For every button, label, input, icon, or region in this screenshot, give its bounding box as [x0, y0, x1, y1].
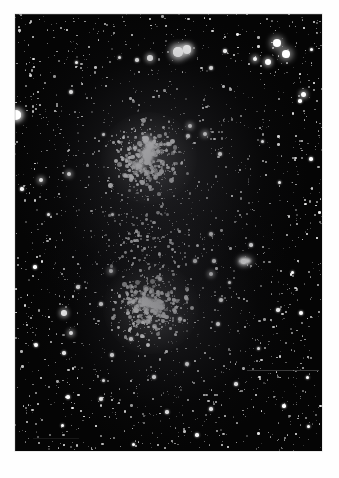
star	[301, 92, 306, 97]
star	[78, 293, 79, 294]
star	[132, 224, 135, 227]
star	[295, 184, 296, 185]
star	[139, 290, 141, 292]
star	[77, 132, 78, 133]
star	[32, 58, 34, 60]
star	[300, 363, 302, 365]
star	[91, 400, 92, 401]
star	[218, 152, 222, 156]
star	[269, 147, 271, 149]
star	[33, 295, 34, 296]
star	[268, 344, 269, 345]
bright-double-star-a	[173, 47, 183, 57]
star	[129, 327, 132, 330]
star	[88, 446, 89, 447]
star	[188, 124, 193, 129]
star	[134, 285, 137, 288]
star	[81, 116, 83, 118]
star	[113, 34, 114, 35]
star	[30, 20, 32, 22]
star	[174, 443, 176, 445]
star	[294, 159, 296, 161]
star	[187, 319, 188, 320]
star	[163, 116, 165, 118]
star	[211, 249, 213, 251]
star	[202, 48, 203, 49]
star	[184, 435, 185, 436]
star	[25, 69, 26, 70]
star	[86, 59, 87, 60]
star	[36, 256, 38, 258]
star	[296, 223, 298, 225]
star	[297, 299, 298, 300]
star	[38, 309, 40, 311]
star	[318, 135, 319, 136]
star	[168, 86, 169, 87]
star	[69, 329, 70, 330]
star	[304, 113, 305, 114]
star	[229, 247, 232, 250]
star	[282, 410, 283, 411]
star	[243, 298, 245, 300]
star	[140, 220, 141, 221]
star	[263, 382, 265, 384]
star	[31, 69, 33, 71]
star	[316, 433, 317, 434]
star	[275, 110, 276, 111]
star	[117, 59, 118, 60]
star	[94, 71, 97, 74]
star	[308, 86, 310, 88]
star	[29, 192, 31, 194]
star	[171, 125, 172, 126]
star	[89, 32, 90, 33]
star	[165, 254, 166, 255]
star	[253, 57, 258, 62]
star	[223, 38, 224, 39]
star	[124, 430, 125, 431]
star	[299, 73, 301, 75]
star	[184, 295, 188, 299]
star	[61, 310, 67, 316]
star	[174, 98, 175, 99]
star	[270, 26, 271, 27]
star	[166, 213, 169, 216]
star	[227, 174, 228, 175]
star	[151, 370, 152, 371]
star	[43, 16, 44, 17]
star	[189, 192, 192, 195]
star	[75, 342, 76, 343]
star	[132, 443, 135, 446]
star	[131, 132, 132, 133]
star	[89, 344, 90, 345]
star	[192, 410, 194, 412]
star	[126, 213, 128, 215]
star	[235, 60, 236, 61]
star	[173, 174, 174, 175]
star	[74, 283, 75, 284]
star	[310, 228, 311, 229]
star	[273, 232, 274, 233]
star	[297, 260, 299, 262]
star	[118, 56, 121, 59]
star	[169, 81, 170, 82]
star	[278, 91, 279, 92]
star	[257, 347, 260, 350]
star	[32, 36, 35, 39]
star	[209, 407, 213, 411]
star	[257, 254, 258, 255]
star	[120, 225, 121, 226]
star	[261, 269, 262, 270]
star	[190, 306, 194, 310]
star	[203, 244, 204, 245]
star	[145, 195, 146, 196]
star	[109, 61, 111, 63]
star	[309, 373, 310, 374]
star	[144, 132, 146, 134]
star	[107, 222, 108, 223]
star	[157, 73, 158, 74]
star	[140, 348, 141, 349]
star	[150, 25, 152, 27]
star	[136, 183, 140, 187]
star	[205, 106, 207, 108]
star	[101, 197, 102, 198]
